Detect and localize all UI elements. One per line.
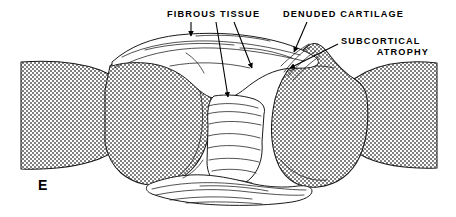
label-subcortical-atrophy-line2: ATROPHY [377, 47, 429, 57]
label-fibrous-tissue: FIBROUS TISSUE [167, 9, 260, 19]
central-fibrous-tissue [207, 95, 265, 187]
joint-illustration: FIBROUS TISSUE DENUDED CARTILAGE SUBCORT… [0, 0, 456, 217]
figure-container: FIBROUS TISSUE DENUDED CARTILAGE SUBCORT… [0, 0, 456, 217]
panel-letter: E [38, 177, 47, 193]
label-subcortical-atrophy-line1: SUBCORTICAL [341, 36, 421, 46]
label-denuded-cartilage: DENUDED CARTILAGE [283, 9, 404, 19]
lower-fibrous-tissue [146, 175, 312, 206]
